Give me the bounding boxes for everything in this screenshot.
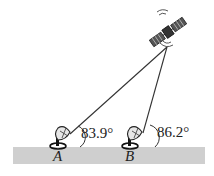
point-label-b: B — [125, 149, 134, 164]
diagram-canvas — [0, 0, 214, 176]
angle-label-a: 83.9° — [81, 126, 113, 141]
antenna-icon-b — [122, 127, 142, 149]
antenna-icon-a — [50, 127, 70, 149]
angle-label-b: 86.2° — [157, 125, 189, 140]
sight-line-a — [70, 47, 167, 134]
sight-line-b — [143, 47, 167, 133]
ground-strip — [13, 147, 205, 164]
point-label-a: A — [53, 149, 62, 164]
